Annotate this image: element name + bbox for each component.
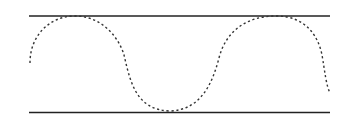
background (0, 0, 347, 115)
wave-diagram (0, 0, 347, 115)
